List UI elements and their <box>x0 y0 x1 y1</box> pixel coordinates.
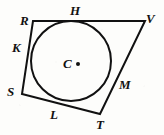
label-point-R: R <box>20 14 29 27</box>
label-point-S: S <box>7 85 14 98</box>
label-point-C: C <box>63 57 72 70</box>
label-point-H: H <box>70 4 80 17</box>
center-point-dot <box>76 62 80 66</box>
label-point-V: V <box>146 12 155 25</box>
label-point-M: M <box>119 78 131 91</box>
geometry-figure: R H V K C M S L T <box>0 0 164 135</box>
label-point-L: L <box>50 108 58 121</box>
label-point-T: T <box>96 118 104 131</box>
label-point-K: K <box>12 41 21 54</box>
